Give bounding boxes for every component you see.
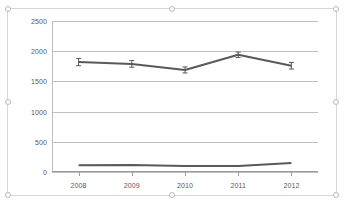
resize-handle-middle-right[interactable] [333,99,339,105]
x-axis-tick-mark [79,172,80,176]
resize-handle-bottom-right[interactable] [333,192,339,198]
resize-handle-middle-left[interactable] [5,99,11,105]
x-axis-tick-label: 2012 [283,182,299,189]
x-axis-tick-label: 2010 [177,182,193,189]
series-plot [52,21,318,172]
x-axis-tick-label: 2009 [124,182,140,189]
y-axis-tick-label: 2500 [11,18,47,25]
resize-handle-top-right[interactable] [333,6,339,12]
x-axis-tick-mark [238,172,239,176]
resize-handle-bottom-center[interactable] [169,192,175,198]
y-axis-tick-label: 1000 [11,108,47,115]
x-axis-tick-mark [185,172,186,176]
x-axis-tick-label: 2008 [71,182,87,189]
chart-object[interactable]: 05001000150020002500 2008200920102011201… [7,8,337,196]
y-axis-tick-label: 500 [11,138,47,145]
x-axis-tick-mark [291,172,292,176]
x-axis-tick-label: 2011 [230,182,245,189]
resize-handle-bottom-left[interactable] [5,192,11,198]
resize-handle-top-center[interactable] [169,6,175,12]
series-line [79,163,292,166]
y-axis-tick-label: 0 [11,169,47,176]
plot-area[interactable]: 05001000150020002500 2008200920102011201… [52,21,318,172]
y-axis-tick-label: 2000 [11,48,47,55]
resize-handle-top-left[interactable] [5,6,11,12]
chart-inner-area: 05001000150020002500 2008200920102011201… [11,12,333,192]
x-axis-tick-mark [132,172,133,176]
y-axis-tick-label: 1500 [11,78,47,85]
